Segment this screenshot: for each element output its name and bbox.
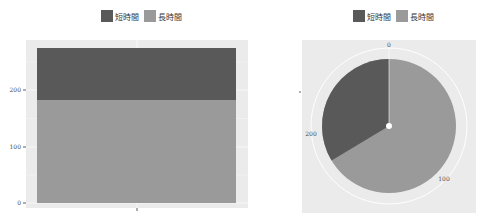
pie-chart-svg — [0, 0, 482, 224]
theta-label-200: 200 — [304, 130, 318, 137]
theta-label-0: 0 — [384, 41, 394, 48]
pie-center-dot — [386, 123, 392, 129]
theta-label-100: 100 — [437, 175, 451, 182]
